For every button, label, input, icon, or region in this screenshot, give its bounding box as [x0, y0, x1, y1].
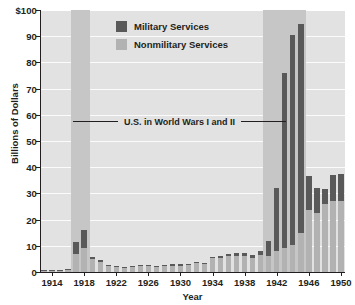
x-tick-mark	[277, 272, 278, 276]
x-tick-mark	[116, 272, 117, 276]
y-tick-label: $100	[15, 5, 37, 16]
legend-item-military: Military Services	[116, 21, 228, 32]
y-axis-ticks: 0102030405060708090$100	[0, 0, 37, 282]
war-annotation: U.S. in World Wars I and II	[73, 117, 286, 127]
bar-segment-military	[242, 253, 247, 256]
bar	[330, 175, 335, 272]
bar-segment-military	[274, 188, 279, 251]
legend: Military Services Nonmilitary Services	[116, 21, 228, 57]
bar-segment-military	[210, 257, 215, 259]
bar-segment-nonmilitary	[202, 264, 207, 272]
bar	[202, 263, 207, 272]
bar-segment-nonmilitary	[186, 265, 191, 272]
x-tick-label: 1922	[106, 277, 127, 288]
x-tick-label: 1950	[330, 277, 351, 288]
bar-segment-military	[338, 174, 343, 202]
x-tick-mark	[84, 272, 85, 276]
x-tick-label: 1942	[266, 277, 287, 288]
bar-segment-military	[154, 266, 159, 267]
bar	[106, 265, 111, 272]
bar	[81, 230, 86, 272]
bar-segment-military	[202, 263, 207, 264]
bar-segment-military	[266, 241, 271, 256]
bar-segment-military	[218, 256, 223, 258]
bar-segment-military	[57, 270, 62, 271]
bar	[282, 73, 287, 272]
bar-segment-nonmilitary	[258, 255, 263, 272]
legend-label-military: Military Services	[134, 21, 209, 32]
x-tick-label: 1914	[41, 277, 62, 288]
bar-segment-military	[314, 188, 319, 213]
bar	[98, 260, 103, 272]
expenditures-bar-chart: Billions of Dollars 0102030405060708090$…	[0, 0, 355, 305]
x-tick-mark	[245, 272, 246, 276]
x-axis-label: Year	[40, 291, 345, 302]
bar	[274, 188, 279, 272]
bar	[194, 262, 199, 272]
y-axis-line	[40, 10, 41, 272]
bar-segment-military	[65, 269, 70, 270]
bar-segment-nonmilitary	[90, 259, 95, 272]
x-tick-mark	[180, 272, 181, 276]
x-tick-label: 1930	[170, 277, 191, 288]
bar-segment-military	[106, 265, 111, 266]
legend-swatch-military-icon	[116, 21, 127, 32]
bar	[306, 176, 311, 272]
bar	[242, 253, 247, 272]
bar-segment-military	[290, 35, 295, 245]
bar-segment-nonmilitary	[322, 204, 327, 272]
bar-segment-military	[114, 266, 119, 267]
bar-segment-military	[90, 257, 95, 259]
bar-segment-military	[258, 251, 263, 255]
legend-item-nonmilitary: Nonmilitary Services	[116, 39, 228, 50]
legend-swatch-nonmilitary-icon	[116, 39, 127, 50]
bar-segment-military	[146, 265, 151, 266]
bar-segment-military	[49, 270, 54, 271]
x-tick-mark	[341, 272, 342, 276]
bar-segment-nonmilitary	[266, 256, 271, 272]
bar-segment-military	[138, 265, 143, 266]
bar-segment-military	[306, 176, 311, 210]
annotation-line-right	[241, 121, 286, 122]
bar	[146, 265, 151, 272]
bar	[258, 251, 263, 272]
annotation-label: U.S. in World Wars I and II	[118, 117, 241, 127]
bar	[250, 255, 255, 272]
bar-segment-military	[178, 264, 183, 265]
bar-segment-nonmilitary	[98, 262, 103, 272]
bar-segment-military	[162, 265, 167, 266]
bar-segment-nonmilitary	[210, 258, 215, 272]
bar-segment-nonmilitary	[314, 213, 319, 272]
bar-segment-military	[81, 230, 86, 248]
bar-segment-nonmilitary	[242, 256, 247, 272]
x-tick-mark	[213, 272, 214, 276]
bar	[162, 265, 167, 272]
bar-segment-military	[122, 267, 127, 268]
bar-segment-nonmilitary	[338, 201, 343, 272]
bar	[210, 257, 215, 272]
bar	[266, 241, 271, 272]
bar-segment-nonmilitary	[81, 248, 86, 272]
bar-segment-nonmilitary	[290, 245, 295, 273]
bar	[234, 253, 239, 272]
bar-segment-nonmilitary	[226, 256, 231, 272]
bar-segment-military	[330, 175, 335, 201]
bar	[314, 188, 319, 272]
x-axis-line	[40, 272, 345, 273]
bar-segment-military	[226, 254, 231, 256]
x-tick-label: 1926	[138, 277, 159, 288]
bar-segment-nonmilitary	[330, 201, 335, 272]
legend-label-nonmilitary: Nonmilitary Services	[134, 39, 228, 50]
bar-segment-nonmilitary	[218, 258, 223, 272]
bar-segment-military	[170, 264, 175, 265]
bar-segment-nonmilitary	[306, 210, 311, 272]
x-tick-mark	[309, 272, 310, 276]
bar	[298, 24, 303, 272]
bar-segment-nonmilitary	[298, 233, 303, 272]
bar-segment-military	[322, 189, 327, 203]
x-tick-label: 1918	[74, 277, 95, 288]
bar-segment-nonmilitary	[73, 254, 78, 272]
bar-segment-nonmilitary	[250, 258, 255, 272]
bar	[322, 189, 327, 272]
bar	[226, 254, 231, 272]
